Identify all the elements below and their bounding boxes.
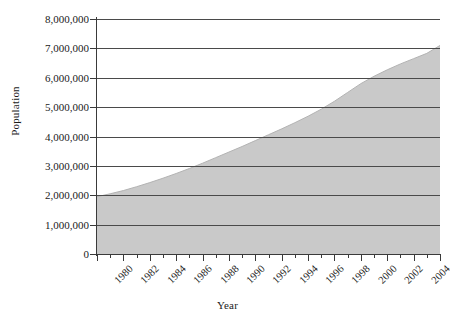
gridline <box>97 107 440 108</box>
x-axis-minor-tick-mark <box>321 255 322 258</box>
x-axis-minor-tick-mark <box>189 255 190 258</box>
y-axis-tick-label: 8,000,000 <box>13 13 89 25</box>
x-axis-tick-label: 1992 <box>270 263 293 286</box>
y-axis-tick-mark <box>90 166 97 167</box>
x-axis-tick-label: 1998 <box>350 263 373 286</box>
x-axis-minor-tick-mark <box>374 255 375 258</box>
x-axis-tick-mark <box>123 255 124 261</box>
x-axis-minor-tick-mark <box>348 255 349 258</box>
gridline <box>97 195 440 196</box>
y-axis-tick-label: 5,000,000 <box>13 101 89 113</box>
x-axis-minor-tick-mark <box>163 255 164 258</box>
y-axis-tick-labels: 01,000,0002,000,0003,000,0004,000,0005,0… <box>13 0 89 321</box>
gridline <box>97 48 440 49</box>
y-axis-tick-mark <box>90 78 97 79</box>
gridline <box>97 137 440 138</box>
area-chart: Population 01,000,0002,000,0003,000,0004… <box>0 0 455 321</box>
x-axis-tick-mark <box>361 255 362 261</box>
y-axis-tick-label: 6,000,000 <box>13 72 89 84</box>
y-axis-tick-label: 2,000,000 <box>13 189 89 201</box>
x-axis-tick-mark <box>97 255 98 261</box>
x-axis-tick-label: 1984 <box>165 263 188 286</box>
x-axis-tick-mark <box>334 255 335 261</box>
x-axis-tick-label: 2000 <box>376 263 399 286</box>
plot-area <box>97 19 440 254</box>
y-axis-tick-mark <box>90 137 97 138</box>
x-axis-minor-tick-mark <box>110 255 111 258</box>
x-axis-tick-mark <box>440 255 441 261</box>
y-axis-tick-mark <box>90 195 97 196</box>
y-axis-tick-mark <box>90 107 97 108</box>
x-axis-tick-mark <box>387 255 388 261</box>
x-axis-minor-tick-mark <box>269 255 270 258</box>
gridline <box>97 225 440 226</box>
x-axis-tick-mark <box>308 255 309 261</box>
gridline <box>97 19 440 20</box>
x-axis-minor-tick-mark <box>295 255 296 258</box>
x-axis-title: Year <box>0 299 455 311</box>
x-axis-tick-label: 1980 <box>112 263 135 286</box>
y-axis-tick-mark <box>90 254 97 255</box>
x-axis-minor-tick-mark <box>242 255 243 258</box>
y-axis-tick-label: 0 <box>13 248 89 260</box>
x-axis-tick-mark <box>414 255 415 261</box>
x-axis-tick-label: 1994 <box>297 263 320 286</box>
gridline <box>97 166 440 167</box>
x-axis-minor-tick-mark <box>137 255 138 258</box>
y-axis-tick-mark <box>90 19 97 20</box>
x-axis-tick-label: 1988 <box>218 263 241 286</box>
x-axis-tick-mark <box>150 255 151 261</box>
y-axis-tick-mark <box>90 48 97 49</box>
y-axis-tick-mark <box>90 225 97 226</box>
x-axis-tick-label: 2002 <box>402 263 425 286</box>
gridline <box>97 78 440 79</box>
x-axis-tick-mark <box>255 255 256 261</box>
x-axis-tick-label: 1990 <box>244 263 267 286</box>
x-axis-minor-tick-mark <box>400 255 401 258</box>
x-axis-tick-label: 2004 <box>429 263 452 286</box>
x-axis-minor-tick-mark <box>427 255 428 258</box>
x-axis-minor-tick-mark <box>216 255 217 258</box>
x-axis-tick-mark <box>229 255 230 261</box>
y-axis-tick-label: 1,000,000 <box>13 219 89 231</box>
x-axis-tick-mark <box>176 255 177 261</box>
x-axis-tick-mark <box>282 255 283 261</box>
x-axis-tick-label: 1996 <box>323 263 346 286</box>
y-axis-tick-label: 3,000,000 <box>13 160 89 172</box>
x-axis-tick-label: 1986 <box>191 263 214 286</box>
area-fill <box>97 45 440 254</box>
y-axis-tick-label: 4,000,000 <box>13 131 89 143</box>
x-axis-tick-mark <box>203 255 204 261</box>
x-axis-tick-label: 1982 <box>139 263 162 286</box>
y-axis-tick-label: 7,000,000 <box>13 42 89 54</box>
